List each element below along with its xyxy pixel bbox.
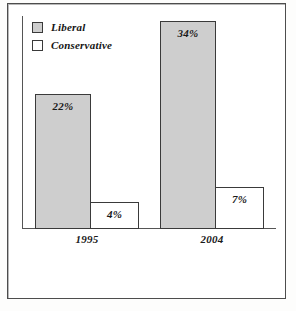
bar-value-label: 7% — [216, 193, 263, 205]
chart-screenshot: 22% 4% 34% 7% 1995 2004 Liberal Conserva… — [0, 0, 296, 311]
x-axis-label-2004: 2004 — [182, 233, 242, 245]
bar-value-label: 22% — [36, 100, 90, 112]
bar-value-label: 34% — [161, 27, 215, 39]
x-axis-label-1995: 1995 — [57, 233, 117, 245]
legend-item-liberal: Liberal — [32, 18, 112, 36]
white-swatch-icon — [32, 40, 43, 51]
bar-1995-conservative: 4% — [90, 202, 139, 229]
gray-swatch-icon — [32, 22, 43, 33]
legend: Liberal Conservative — [32, 18, 112, 54]
legend-item-conservative: Conservative — [32, 36, 112, 54]
plot-area: 22% 4% 34% 7% 1995 2004 Liberal Conserva… — [0, 0, 296, 311]
bar-2004-conservative: 7% — [215, 187, 264, 229]
bar-value-label: 4% — [91, 208, 138, 220]
legend-item-label: Conservative — [51, 39, 112, 51]
bar-1995-liberal: 22% — [35, 94, 91, 229]
legend-item-label: Liberal — [51, 21, 85, 33]
y-axis-line — [22, 16, 23, 229]
bar-2004-liberal: 34% — [160, 21, 216, 229]
